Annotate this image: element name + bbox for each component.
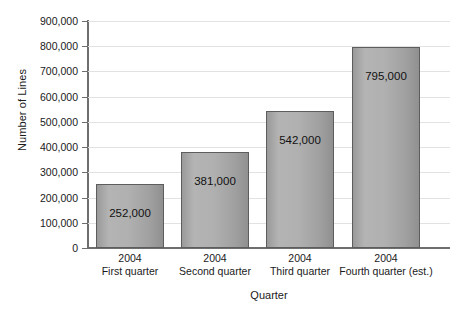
x-axis-category-label: 2004Fourth quarter (est.) [326, 252, 446, 278]
category-year: 2004 [326, 252, 446, 265]
y-axis-tick-label: 0 [8, 243, 78, 253]
y-axis-tick-label: 200,000 [8, 193, 78, 203]
y-axis-tick-label: 300,000 [8, 167, 78, 177]
bar-value-label: 795,000 [353, 70, 419, 82]
y-axis-tick-label: 600,000 [8, 92, 78, 102]
category-name: Fourth quarter (est.) [326, 265, 446, 278]
y-axis-title: Number of Lines [16, 40, 28, 180]
bar[interactable]: 381,000 [181, 152, 249, 248]
y-axis-tick-label: 800,000 [8, 41, 78, 51]
y-axis-tick-label: 400,000 [8, 142, 78, 152]
gridline [88, 21, 450, 22]
x-axis-title: Quarter [88, 289, 450, 301]
bar-chart: Number of Lines 900,000800,000700,000600… [0, 0, 459, 317]
y-axis-tick-label: 500,000 [8, 117, 78, 127]
y-axis-tick-label: 700,000 [8, 66, 78, 76]
y-axis-tick-label: 100,000 [8, 218, 78, 228]
bar-value-label: 542,000 [267, 134, 333, 146]
plot-area: 252,000381,000542,000795,000 [88, 21, 450, 248]
bar-value-label: 381,000 [182, 175, 248, 187]
y-axis-tick-mark [82, 248, 88, 249]
bar[interactable]: 795,000 [352, 47, 420, 248]
bar[interactable]: 252,000 [96, 184, 164, 248]
bar-value-label: 252,000 [97, 207, 163, 219]
bar[interactable]: 542,000 [266, 111, 334, 248]
y-axis-tick-label: 900,000 [8, 16, 78, 26]
